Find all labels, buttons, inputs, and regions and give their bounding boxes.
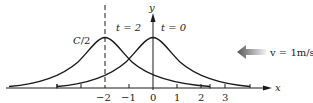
curve-t0-label: t = 0 — [161, 22, 187, 33]
tick-label-minus-1: −1 — [121, 92, 136, 103]
tick-label-1: 1 — [174, 92, 180, 103]
velocity-arrow-icon — [237, 45, 266, 59]
tick-label-2: 2 — [198, 92, 204, 103]
tick-label-minus-2: −2 — [96, 92, 111, 103]
x-axis-label: x — [275, 82, 281, 93]
velocity-label: v = 1m/s — [269, 47, 313, 58]
peak-label: C/2 — [73, 35, 90, 46]
tick-label-3: 3 — [222, 92, 228, 103]
x-axis: x — [6, 82, 281, 93]
y-axis: y — [148, 2, 156, 90]
curve-t2-label: t = 2 — [116, 22, 141, 33]
x-tick-labels: −2 −1 0 1 2 3 — [96, 92, 228, 103]
y-axis-arrow-icon — [151, 13, 156, 22]
tick-label-0: 0 — [150, 92, 156, 103]
wave-diagram: x y −2 −1 0 1 2 3 C/2 t = 2 t = 0 v = 1m… — [0, 0, 313, 103]
x-axis-arrow-icon — [263, 86, 272, 91]
y-axis-label: y — [148, 2, 155, 13]
